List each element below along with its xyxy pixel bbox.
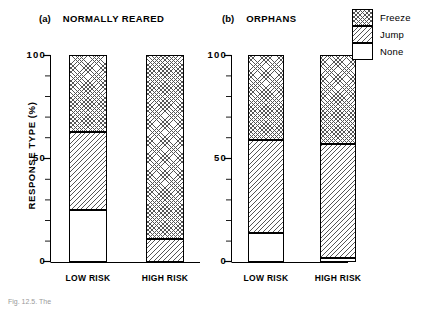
panel-b-low-risk-segment-none <box>248 233 284 262</box>
panel-b-title: (b) ORPHANS <box>222 13 297 24</box>
figure-caption: Fig. 12.5. The <box>8 298 51 305</box>
legend-label-freeze: Freeze <box>380 12 411 23</box>
panel-b-ytick-50: 50 <box>189 152 227 163</box>
panel-b-high-risk-segment-freeze <box>320 55 356 144</box>
panel-b-xtick-high-risk: HIGH RISK <box>308 273 368 283</box>
panel-b-xtick-low-risk: LOW RISK <box>237 273 295 283</box>
legend: Freeze Jump None <box>352 9 434 60</box>
legend-swatch-jump-icon <box>352 26 373 43</box>
panel-a-bar-high-risk <box>146 55 184 262</box>
panel-a-bar-low-risk <box>69 55 107 262</box>
panel-a-xtick-low-risk: LOW RISK <box>58 273 118 283</box>
panel-b-ytick-0: 0 <box>189 255 227 266</box>
panel-b-bar-low-risk <box>248 55 284 262</box>
panel-b-ytick-100: 100 <box>189 49 227 60</box>
panel-b-high-risk-segment-none <box>320 258 356 262</box>
legend-label-jump: Jump <box>380 29 404 40</box>
panel-a-high-risk-segment-jump <box>146 239 184 262</box>
figure-panel-container: RESPONSE TYPE (%) (a) NORMALLY REARED 10… <box>0 0 434 310</box>
panel-b-high-risk-segment-jump <box>320 144 356 258</box>
panel-a-low-risk-segment-none <box>69 210 107 262</box>
panel-a-low-risk-segment-freeze <box>69 55 107 132</box>
panel-b-bar-high-risk <box>320 55 356 262</box>
legend-label-none: None <box>380 46 404 57</box>
legend-swatch-freeze-icon <box>352 9 373 26</box>
legend-swatch-none-icon <box>352 43 373 60</box>
panel-a-xtick-high-risk: HIGH RISK <box>134 273 196 283</box>
panel-b-low-risk-segment-freeze <box>248 55 284 140</box>
panel-b-tag: (b) <box>222 13 234 24</box>
panel-a-low-risk-segment-jump <box>69 132 107 211</box>
panel-b-low-risk-segment-jump <box>248 140 284 233</box>
panel-b-title-text: ORPHANS <box>246 13 296 24</box>
legend-item-freeze: Freeze <box>352 9 434 26</box>
legend-item-jump: Jump <box>352 26 434 43</box>
panel-a-high-risk-segment-freeze <box>146 55 184 239</box>
legend-item-none: None <box>352 43 434 60</box>
